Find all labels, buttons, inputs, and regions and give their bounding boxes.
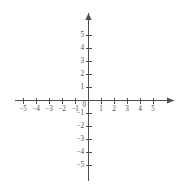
y-tick-label-neg3: −3 [76, 135, 84, 143]
axis-lines [15, 13, 174, 181]
x-tick-label-neg2: −2 [58, 105, 66, 113]
x-tick-label-1: 1 [99, 105, 103, 113]
x-tick-label-neg5: −5 [19, 105, 27, 113]
y-tick-label-neg2: −2 [76, 122, 84, 130]
y-tick-label-5: 5 [80, 31, 84, 39]
x-tick-label-neg3: −3 [45, 105, 53, 113]
y-axis-arrowhead [85, 13, 91, 20]
y-tick-label-neg4: −4 [76, 148, 84, 156]
x-tick-label-5: 5 [151, 105, 155, 113]
x-tick-label-4: 4 [138, 105, 142, 113]
y-tick-label-neg5: −5 [76, 161, 84, 169]
x-tick-label-2: 2 [112, 105, 116, 113]
y-tick-label-4: 4 [80, 44, 84, 52]
x-axis-arrowhead [167, 97, 174, 103]
origin-label: 0 [82, 101, 86, 109]
coordinate-plane: −5−4−3−2−112345 54321−1−2−3−4−5 0 [0, 0, 190, 190]
axes-svg [0, 0, 190, 190]
arrow-heads [85, 13, 174, 104]
y-tick-label-1: 1 [80, 83, 84, 91]
x-tick-label-neg4: −4 [32, 105, 40, 113]
y-tick-label-3: 3 [80, 57, 84, 65]
x-tick-label-3: 3 [125, 105, 129, 113]
y-tick-label-2: 2 [80, 70, 84, 78]
y-tick-label-neg1: −1 [76, 109, 84, 117]
